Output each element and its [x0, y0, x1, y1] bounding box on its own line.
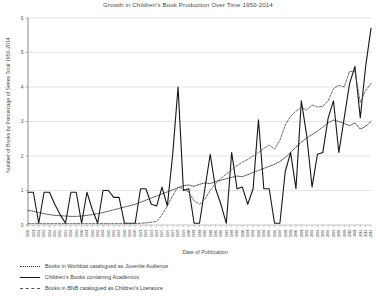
x-axis-tick-label: 1987 [225, 229, 229, 237]
y-axis-tick-label: 0 [21, 222, 24, 228]
x-axis-tick-label: 1969 [128, 229, 132, 237]
x-axis-tick-label: 1970 [133, 229, 137, 237]
y-axis-tick-label: 2 [21, 153, 24, 159]
y-axis-tick-label: 6 [21, 15, 24, 21]
legend-label: Books in Worldcat catalogued as Juvenile… [45, 263, 168, 270]
x-axis-tick-label: 2012 [359, 229, 363, 237]
x-axis-tick-label: 1984 [209, 229, 213, 237]
x-axis-tick-label: 1967 [117, 229, 121, 237]
x-axis-tick-label: 2013 [364, 229, 368, 237]
x-axis-tick-label: 1953 [42, 229, 46, 237]
x-axis-tick-label: 2005 [321, 229, 325, 237]
x-axis-tick-label: 1983 [203, 229, 207, 237]
y-axis-tick-label: 1 [21, 187, 24, 193]
x-axis-tick-label: 1952 [37, 229, 41, 237]
x-axis-tick-label: 2006 [326, 229, 330, 237]
x-axis-tick-label: 1974 [155, 229, 159, 237]
legend-label: Books in BNB catalogued as Children's Li… [45, 285, 163, 292]
x-axis-tick-label: 1959 [75, 229, 79, 237]
x-axis-tick-label: 1966 [112, 229, 116, 237]
x-axis-tick-label: 1954 [48, 229, 52, 237]
x-axis-tick-label: 2014 [369, 229, 373, 237]
x-axis-tick-label: 1965 [107, 229, 111, 237]
x-axis-tick-label: 2001 [300, 229, 304, 237]
x-axis-tick-label: 1982 [198, 229, 202, 237]
x-axis-tick-label: 1978 [176, 229, 180, 237]
series-line-2 [28, 71, 371, 223]
legend-item-bnb: Books in BNB catalogued as Children's Li… [20, 283, 260, 294]
solid-line-swatch-icon [20, 274, 40, 281]
y-axis-tick-label: 5 [21, 49, 24, 55]
x-axis-tick-label: 1989 [235, 229, 239, 237]
x-axis-tick-label: 1988 [230, 229, 234, 237]
x-axis-tick-label: 2011 [353, 229, 357, 236]
x-axis-tick-label: 1955 [53, 229, 57, 237]
x-axis-tick-label: 1999 [289, 229, 293, 237]
x-axis-tick-label: 1985 [214, 229, 218, 237]
x-axis-tick-label: 1973 [150, 229, 154, 237]
x-axis-tick-label: 1991 [246, 229, 250, 237]
x-axis-tick-label: 1997 [278, 229, 282, 237]
x-axis-tick-label: 1950 [26, 229, 30, 237]
x-axis-tick-label: 2008 [337, 229, 341, 237]
x-axis-tick-label: 1980 [187, 229, 191, 237]
series-line-1 [28, 28, 371, 223]
x-axis-tick-label: 2007 [332, 229, 336, 237]
legend-label: Children's Books containing Academics [45, 274, 139, 281]
y-axis-tick-label: 4 [21, 84, 24, 90]
y-axis-tick-label: 3 [21, 118, 24, 124]
x-axis-tick-label: 1994 [262, 229, 266, 237]
x-axis-tick-label: 1992 [251, 229, 255, 237]
x-axis-tick-label: 2000 [294, 229, 298, 237]
x-axis-tick-label: 1975 [160, 229, 164, 237]
chart-figure: Growth in Children's Book Production Ove… [0, 0, 376, 296]
x-axis-tick-label: 1961 [85, 229, 89, 237]
x-axis-tick-label: 1957 [64, 229, 68, 237]
legend-item-academics: Children's Books containing Academics [20, 272, 260, 283]
x-axis-tick-label: 1951 [32, 229, 36, 237]
x-axis-tick-label: 1981 [192, 229, 196, 237]
x-axis-tick-label: 1964 [101, 229, 105, 237]
x-axis-tick-label: 1990 [241, 229, 245, 237]
x-axis-tick-label: 1976 [166, 229, 170, 237]
x-axis-tick-label: 1960 [80, 229, 84, 237]
legend-item-worldcat: Books in Worldcat catalogued as Juvenile… [20, 261, 260, 272]
x-axis-tick-label: 2003 [310, 229, 314, 237]
x-axis-tick-label: 1993 [257, 229, 261, 237]
x-axis-tick-label: 1972 [144, 229, 148, 237]
dotted-line-swatch-icon [20, 263, 40, 270]
x-axis-label: Date of Publication [150, 249, 260, 255]
x-axis-tick-label: 1968 [123, 229, 127, 237]
x-axis-tick-label: 1986 [219, 229, 223, 237]
x-axis-tick-label: 1963 [96, 229, 100, 237]
x-axis-tick-label: 1956 [58, 229, 62, 237]
dashed-line-swatch-icon [20, 285, 40, 292]
series-line-0 [28, 120, 371, 216]
x-axis-tick-label: 2010 [348, 229, 352, 237]
x-axis-tick-label: 1958 [69, 229, 73, 237]
x-axis-tick-label: 1998 [284, 229, 288, 237]
x-axis-tick-label: 1996 [273, 229, 277, 237]
x-axis-tick-label: 2002 [305, 229, 309, 237]
x-axis-tick-label: 1977 [171, 229, 175, 237]
x-axis-tick-label: 1962 [91, 229, 95, 237]
x-axis-tick-label: 2009 [343, 229, 347, 237]
x-axis-tick-label: 1995 [267, 229, 271, 237]
x-axis-tick-label: 2004 [316, 229, 320, 237]
x-axis-tick-label: 1971 [139, 229, 143, 237]
chart-legend: Books in Worldcat catalogued as Juvenile… [20, 261, 260, 294]
x-axis-tick-label: 1979 [182, 229, 186, 237]
